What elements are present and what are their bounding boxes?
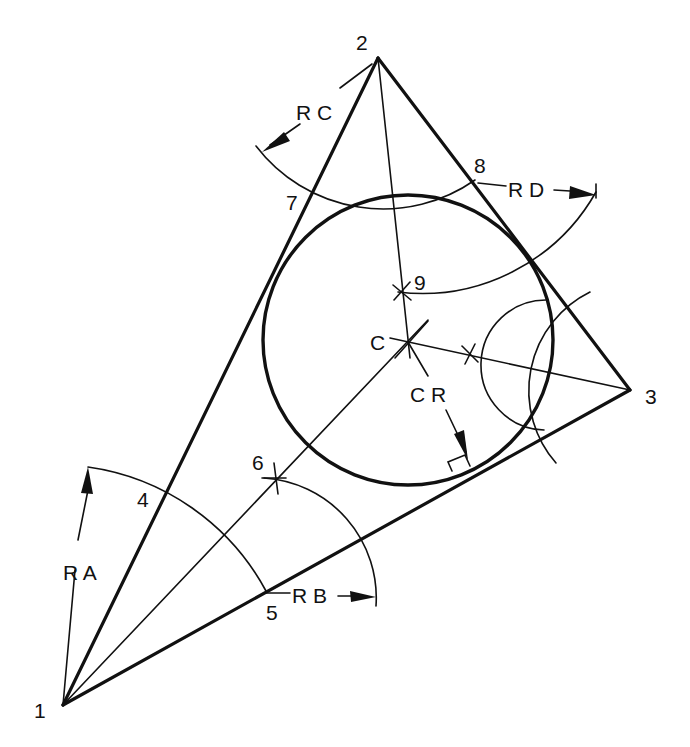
radius-line-cr [408,342,428,376]
rc-dimension-line-top [340,64,372,88]
center-label-c: C [370,331,385,354]
vertex-label-3: 3 [645,385,657,408]
rc-arrowhead [262,132,290,152]
radius-label-ra: R A [63,561,97,584]
vertex-label-1: 1 [34,699,46,722]
point-label-4: 4 [137,488,149,511]
point-label-6: 6 [252,451,264,474]
right-angle-mark [448,455,470,471]
rd-arrowhead [569,186,596,199]
point-label-8: 8 [474,154,486,177]
point-label-9: 9 [414,271,426,294]
rb-arrowhead [350,591,376,602]
bisector-from-1 [63,320,428,705]
triangle-side-1-2 [63,58,378,705]
arc-rd [398,192,596,293]
point-label-7: 7 [286,191,298,214]
incircle-construction-diagram: 1 2 3 4 5 6 7 8 9 C R A R B R C R D C R [0,0,690,747]
triangle-side-2-3 [378,58,630,390]
radius-label-rc: R C [296,101,332,124]
ra-arrowhead [81,467,93,494]
arc-from-3-upper [529,292,590,463]
point-label-5: 5 [266,601,278,624]
arc-ra [88,467,266,591]
rd-dimension-line-right [554,190,570,191]
radius-label-rd: R D [508,178,544,201]
radius-label-rb: R B [292,584,327,607]
rd-dimension-line-left [478,183,506,186]
radius-label-cr: C R [410,383,446,406]
ra-dimension-line-top [78,490,88,540]
vertex-label-2: 2 [356,31,368,54]
triangle-side-1-3 [63,390,630,705]
